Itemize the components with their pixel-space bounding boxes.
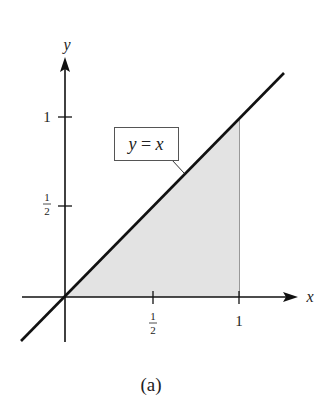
svg-text:2: 2 bbox=[44, 205, 50, 217]
y-tick-label-half: 1 2 bbox=[43, 191, 51, 217]
svg-text:1: 1 bbox=[44, 191, 50, 203]
y-tick-label-one: 1 bbox=[43, 109, 51, 125]
svg-text:2: 2 bbox=[150, 324, 156, 336]
curve-label: y = x bbox=[126, 134, 163, 154]
label-leader-line bbox=[172, 160, 184, 173]
figure-caption: (a) bbox=[140, 374, 161, 396]
svg-text:1: 1 bbox=[150, 310, 156, 322]
y-axis-label: y bbox=[61, 36, 71, 54]
x-tick-label-one: 1 bbox=[235, 313, 243, 329]
x-axis-label: x bbox=[305, 288, 313, 305]
x-tick-label-half: 1 2 bbox=[149, 310, 157, 336]
figure-canvas: y = x y x 1 2 1 1 2 1 (a) bbox=[0, 0, 329, 417]
